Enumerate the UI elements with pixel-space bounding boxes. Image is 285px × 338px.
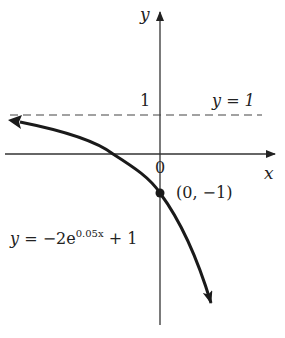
y-axis-label: y (140, 4, 150, 24)
equation-end: + 1 (104, 229, 138, 248)
curve-left-arrow-icon (8, 115, 22, 129)
asymptote-label: y = 1 (212, 91, 255, 110)
function-curve (20, 122, 211, 303)
x-axis-label: x (264, 163, 274, 183)
equation-y: y (10, 229, 19, 248)
point-0-neg1 (156, 189, 165, 198)
y-tick-1: 1 (140, 91, 150, 110)
graph-canvas (0, 0, 285, 338)
origin-label: 0 (155, 158, 165, 177)
equation-label: y = −2e0.05x + 1 (10, 229, 137, 248)
equation-exponent: 0.05x (76, 228, 104, 239)
point-label: (0, −1) (176, 183, 232, 202)
equation-body: = −2e (19, 229, 76, 248)
